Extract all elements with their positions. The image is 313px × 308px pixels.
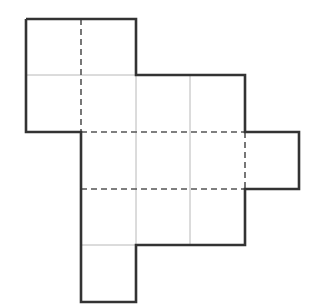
grid-thin-lines xyxy=(26,75,245,245)
net-outline xyxy=(26,19,299,302)
cube-net-diagram xyxy=(0,0,313,308)
fold-dashed-lines xyxy=(81,19,245,189)
